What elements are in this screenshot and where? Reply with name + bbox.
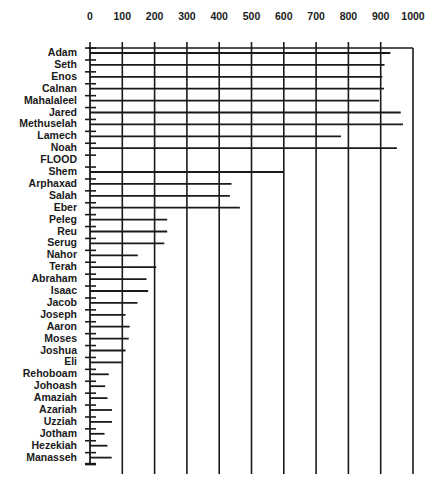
x-tick-label: 400	[210, 10, 228, 22]
category-label: Aaron	[47, 320, 77, 332]
x-tick-label: 500	[243, 10, 261, 22]
category-label: Hezekiah	[31, 439, 77, 451]
category-label: Manasseh	[26, 451, 77, 463]
x-tick-label: 0	[87, 10, 93, 22]
x-tick-label: 900	[372, 10, 390, 22]
category-labels: AdamSethEnosCalnanMahalaleelJaredMethuse…	[19, 46, 77, 463]
category-label: FLOOD	[40, 153, 77, 165]
x-axis-tick-labels: 01002003004005006007008009001000	[87, 10, 425, 22]
x-tick-label: 600	[275, 10, 293, 22]
category-label: Isaac	[51, 284, 77, 296]
category-label: Eber	[54, 201, 77, 213]
category-label: Enos	[51, 70, 77, 82]
x-tick-label: 700	[307, 10, 325, 22]
category-label: Seth	[54, 58, 77, 70]
category-label: Jared	[49, 106, 77, 118]
category-label: Mahalaleel	[24, 94, 77, 106]
x-tick-label: 100	[114, 10, 132, 22]
category-label: Noah	[51, 141, 77, 153]
lifespan-bar-chart: 01002003004005006007008009001000 AdamSet…	[0, 0, 444, 494]
y-axis	[85, 48, 96, 465]
category-label: Reu	[57, 225, 77, 237]
category-label: Jacob	[47, 296, 77, 308]
category-label: Amaziah	[34, 391, 77, 403]
category-label: Johoash	[34, 379, 77, 391]
vertical-gridlines	[90, 42, 413, 474]
category-label: Azariah	[39, 403, 77, 415]
category-label: Joseph	[40, 308, 77, 320]
category-label: Peleg	[49, 213, 77, 225]
category-label: Arphaxad	[29, 177, 77, 189]
category-label: Abraham	[31, 272, 77, 284]
category-label: Joshua	[40, 344, 77, 356]
category-label: Uzziah	[44, 415, 77, 427]
bars	[90, 53, 403, 458]
category-label: Terah	[49, 260, 77, 272]
category-label: Rehoboam	[23, 367, 77, 379]
category-label: Lamech	[37, 129, 77, 141]
x-tick-label: 200	[146, 10, 164, 22]
category-label: Adam	[48, 46, 77, 58]
category-label: Eli	[64, 355, 77, 367]
category-label: Moses	[44, 332, 77, 344]
category-label: Salah	[49, 189, 77, 201]
category-label: Methuselah	[19, 117, 77, 129]
x-tick-label: 300	[178, 10, 196, 22]
x-tick-label: 1000	[401, 10, 425, 22]
category-label: Shem	[48, 165, 77, 177]
category-label: Calnan	[42, 82, 77, 94]
category-label: Serug	[47, 236, 77, 248]
category-label: Nahor	[47, 248, 77, 260]
x-tick-label: 800	[340, 10, 358, 22]
category-label: Jotham	[40, 427, 77, 439]
